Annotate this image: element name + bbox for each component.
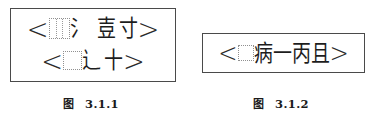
figure-caption-3-1-2: 图 3.1.2 xyxy=(253,95,309,111)
char-yi-one: 一 xyxy=(273,42,292,64)
char-zhu: 壴 xyxy=(97,17,116,39)
char-cun: 寸 xyxy=(119,17,138,39)
ruled-dotted-placeholder-box xyxy=(49,18,70,39)
figure-caption-3-1-1: 图 3.1.1 xyxy=(63,95,119,111)
expression-row-1: < 氵 壴 寸 > xyxy=(27,13,160,45)
char-qie: 且 xyxy=(311,42,330,64)
open-angle-bracket: < xyxy=(218,40,237,66)
figure-page: < 氵 壴 寸 > < 辶 十 > 图 3.1.1 < 病 一 丙 xyxy=(0,0,377,120)
close-angle-bracket: > xyxy=(138,14,160,43)
caption-number: 3.1.1 xyxy=(85,97,119,111)
open-angle-bracket: < xyxy=(41,46,63,75)
char-water-radical: 氵 xyxy=(70,17,89,39)
plain-dotted-placeholder-box xyxy=(63,51,82,70)
plain-dotted-placeholder-box xyxy=(238,45,254,61)
figure-panel-3-1-1: < 氵 壴 寸 > < 辶 十 > xyxy=(10,8,176,82)
figure-panel-3-1-2: < 病 一 丙 且 > xyxy=(202,33,365,73)
char-bing-third: 丙 xyxy=(292,42,311,64)
caption-label-tu: 图 xyxy=(63,95,74,111)
close-angle-bracket: > xyxy=(330,40,349,66)
caption-number: 3.1.2 xyxy=(275,97,309,111)
char-bing-illness: 病 xyxy=(254,42,273,64)
char-walk-radical: 辶 xyxy=(82,49,101,71)
expression-row-1: < 病 一 丙 且 > xyxy=(218,42,349,65)
expression-row-2: < 辶 十 > xyxy=(41,45,145,77)
char-shi: 十 xyxy=(104,49,123,71)
open-angle-bracket: < xyxy=(27,14,49,43)
close-angle-bracket: > xyxy=(123,46,145,75)
caption-label-tu: 图 xyxy=(253,95,264,111)
